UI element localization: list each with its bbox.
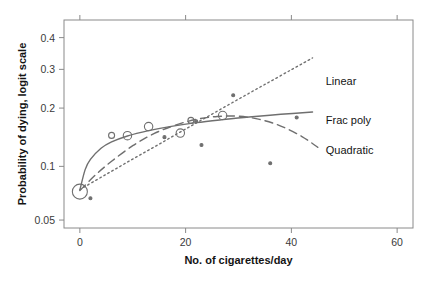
data-point bbox=[295, 116, 298, 119]
data-point bbox=[232, 94, 235, 97]
label-frac-poly: Frac poly bbox=[326, 114, 372, 126]
data-points bbox=[72, 94, 298, 200]
data-point bbox=[144, 122, 152, 130]
chart-svg: 0.050.10.20.30.4 0204060 LinearFrac poly… bbox=[0, 0, 436, 282]
y-tick-label: 0.2 bbox=[40, 102, 55, 114]
data-point bbox=[163, 136, 166, 139]
data-point bbox=[176, 129, 184, 137]
label-linear: Linear bbox=[326, 75, 357, 87]
chart-figure: 0.050.10.20.30.4 0204060 LinearFrac poly… bbox=[0, 0, 436, 282]
y-tick-label: 0.4 bbox=[40, 32, 55, 44]
data-point bbox=[195, 120, 198, 123]
data-point bbox=[89, 197, 92, 200]
curve-labels: LinearFrac polyQuadratic bbox=[326, 75, 374, 156]
x-tick-label: 0 bbox=[77, 236, 83, 248]
y-tick-label: 0.05 bbox=[35, 214, 56, 226]
data-point bbox=[269, 162, 272, 165]
label-quadratic: Quadratic bbox=[326, 144, 374, 156]
x-tick-label: 20 bbox=[180, 236, 192, 248]
data-point bbox=[109, 132, 115, 138]
y-axis-ticks: 0.050.10.20.30.4 bbox=[35, 32, 64, 226]
curve-quadratic bbox=[80, 116, 318, 191]
data-point bbox=[72, 184, 87, 199]
y-tick-label: 0.1 bbox=[40, 160, 55, 172]
y-tick-label: 0.3 bbox=[40, 63, 55, 75]
y-axis-label: Probability of dying, logit scale bbox=[16, 43, 28, 206]
fitted-curves bbox=[80, 58, 318, 191]
x-tick-label: 60 bbox=[391, 236, 403, 248]
data-point bbox=[218, 111, 226, 119]
curve-linear bbox=[80, 58, 313, 190]
data-point bbox=[200, 144, 203, 147]
x-axis-label: No. of cigarettes/day bbox=[184, 254, 293, 266]
x-tick-label: 40 bbox=[286, 236, 298, 248]
